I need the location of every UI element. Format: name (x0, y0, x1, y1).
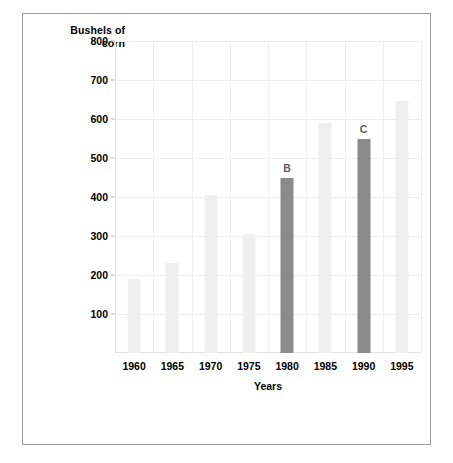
y-tick-mark (111, 314, 115, 315)
bar-annotation-C: C (360, 123, 368, 135)
bar-1985[interactable] (319, 123, 332, 353)
y-tick-mark (111, 236, 115, 237)
bar-1970[interactable] (204, 195, 217, 353)
bar-1960[interactable] (128, 279, 141, 353)
chart-frame: Bushels of corn 100200300400500600700800… (22, 13, 431, 445)
y-axis-title-line-2: corn (31, 37, 125, 50)
x-axis-title: Years (115, 380, 421, 392)
y-tick-label: 500 (90, 152, 108, 164)
plot-area: 100200300400500600700800 BC 196019651970… (115, 41, 421, 353)
x-tick-label: 1995 (390, 360, 413, 372)
x-tick-label: 1985 (314, 360, 337, 372)
x-tick-label: 1975 (237, 360, 260, 372)
y-tick-mark (111, 80, 115, 81)
bar-1965[interactable] (166, 263, 179, 353)
y-tick-label: 400 (90, 191, 108, 203)
y-tick-mark (111, 41, 115, 42)
bar-1980[interactable] (281, 178, 294, 354)
y-tick-mark (111, 119, 115, 120)
y-axis-title-line-1: Bushels of (31, 24, 125, 37)
x-tick-label: 1980 (275, 360, 298, 372)
gridline-vertical (306, 41, 307, 353)
bar-1995[interactable] (395, 101, 408, 353)
gridline-vertical (421, 41, 422, 353)
x-tick-label: 1970 (199, 360, 222, 372)
y-tick-label: 700 (90, 74, 108, 86)
y-tick-label: 200 (90, 269, 108, 281)
y-tick-mark (111, 275, 115, 276)
y-tick-label: 300 (90, 230, 108, 242)
bar-1990[interactable] (357, 139, 370, 354)
bar-1975[interactable] (242, 234, 255, 353)
y-tick-label: 100 (90, 308, 108, 320)
gridline-vertical (383, 41, 384, 353)
gridline-vertical (345, 41, 346, 353)
y-axis-title: Bushels of corn (31, 24, 125, 49)
y-tick-mark (111, 197, 115, 198)
y-tick-label: 600 (90, 113, 108, 125)
x-tick-label: 1960 (122, 360, 145, 372)
bar-annotation-B: B (283, 162, 291, 174)
x-tick-label: 1965 (161, 360, 184, 372)
y-tick-label: 800 (90, 35, 108, 47)
x-tick-label: 1990 (352, 360, 375, 372)
gridline-vertical (153, 41, 154, 353)
gridline-vertical (268, 41, 269, 353)
y-tick-mark (111, 158, 115, 159)
gridline-vertical (230, 41, 231, 353)
gridline-vertical (192, 41, 193, 353)
